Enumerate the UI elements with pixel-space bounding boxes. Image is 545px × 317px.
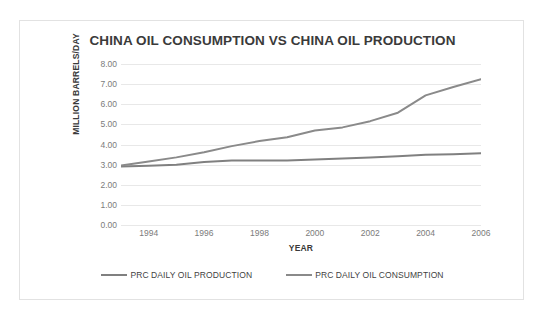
series-line xyxy=(121,153,481,166)
series-lines xyxy=(121,64,481,225)
x-axis-tick-label: 1998 xyxy=(239,228,279,238)
legend-item-label: PRC DAILY OIL PRODUCTION xyxy=(130,270,252,280)
legend-swatch-icon xyxy=(286,274,312,276)
y-axis-tick-label: 4.00 xyxy=(77,140,117,150)
y-axis-tick-label: 3.00 xyxy=(77,160,117,170)
x-axis-tick-label: 2006 xyxy=(461,228,501,238)
x-axis-tick-label: 2002 xyxy=(350,228,390,238)
plot-area xyxy=(121,64,481,225)
x-axis-title: YEAR xyxy=(121,243,481,253)
series-line xyxy=(121,79,481,165)
x-axis-tick-label: 1994 xyxy=(129,228,169,238)
chart-legend: PRC DAILY OIL PRODUCTIONPRC DAILY OIL CO… xyxy=(20,270,525,280)
y-axis-tick-label: 8.00 xyxy=(77,59,117,69)
chart-title: CHINA OIL CONSUMPTION VS CHINA OIL PRODU… xyxy=(20,33,525,48)
x-axis-tick-label: 1996 xyxy=(184,228,224,238)
y-axis-tick-label: 7.00 xyxy=(77,79,117,89)
y-axis-tick-label: 1.00 xyxy=(77,200,117,210)
chart-container: CHINA OIL CONSUMPTION VS CHINA OIL PRODU… xyxy=(19,20,524,300)
y-axis-tick-label: 6.00 xyxy=(77,99,117,109)
x-axis-tick-labels: 1994199619982000200220042006 xyxy=(121,228,481,242)
x-axis-tick-label: 2004 xyxy=(406,228,446,238)
legend-swatch-icon xyxy=(101,274,127,276)
y-axis-tick-label: 2.00 xyxy=(77,180,117,190)
legend-item-label: PRC DAILY OIL CONSUMPTION xyxy=(315,270,443,280)
gridline xyxy=(121,225,481,226)
legend-item[interactable]: PRC DAILY OIL CONSUMPTION xyxy=(286,270,443,280)
legend-item[interactable]: PRC DAILY OIL PRODUCTION xyxy=(101,270,252,280)
y-axis-tick-label: 0.00 xyxy=(77,220,117,230)
y-axis-tick-label: 5.00 xyxy=(77,119,117,129)
y-axis-tick-labels: 0.001.002.003.004.005.006.007.008.00 xyxy=(75,64,117,225)
x-axis-tick-label: 2000 xyxy=(295,228,335,238)
